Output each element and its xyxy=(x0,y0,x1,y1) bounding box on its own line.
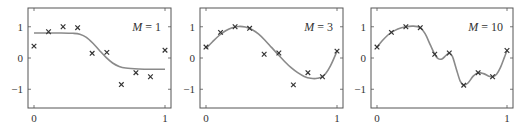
fit-curve xyxy=(206,26,337,78)
x-tick-label: 1 xyxy=(334,112,340,124)
y-tick-label: −1 xyxy=(354,83,366,95)
model-order-label: M = 3 xyxy=(303,20,333,34)
y-tick-label: 0 xyxy=(361,52,367,64)
y-tick-label: −1 xyxy=(183,83,195,95)
y-tick-label: 1 xyxy=(361,21,367,33)
data-point-cross-icon xyxy=(119,82,124,87)
panel-m10: 10−101 M = 10 xyxy=(354,8,513,124)
fit-curve xyxy=(377,26,507,85)
model-order-label: M = 1 xyxy=(131,20,161,34)
data-point-cross-icon xyxy=(163,48,168,53)
x-tick-label: 0 xyxy=(203,112,209,124)
data-point-cross-icon xyxy=(389,30,394,35)
y-tick-label: −1 xyxy=(11,83,23,95)
x-tick-label: 0 xyxy=(374,112,380,124)
data-point-cross-icon xyxy=(375,45,380,50)
fit-curve xyxy=(34,33,165,69)
panel-m1: 10−101 M = 1 xyxy=(11,8,171,124)
fit-curve-path xyxy=(377,26,507,85)
data-point-cross-icon xyxy=(148,74,153,79)
data-point-cross-icon xyxy=(291,83,296,88)
fit-curve-path xyxy=(206,26,337,78)
data-points xyxy=(32,24,168,86)
model-order-label: M = 10 xyxy=(467,20,503,34)
y-tick-label: 1 xyxy=(190,21,196,33)
data-point-cross-icon xyxy=(75,25,80,30)
data-point-cross-icon xyxy=(32,44,37,49)
panel-m3: 10−101 M = 3 xyxy=(183,8,343,124)
data-point-cross-icon xyxy=(306,70,311,75)
y-tick-label: 1 xyxy=(18,21,24,33)
y-tick-label: 0 xyxy=(18,52,24,64)
x-tick-label: 0 xyxy=(31,112,37,124)
y-tick-label: 0 xyxy=(190,52,196,64)
fit-curve-path xyxy=(34,33,165,69)
data-points xyxy=(375,24,510,87)
data-point-cross-icon xyxy=(262,52,267,57)
x-tick-label: 1 xyxy=(162,112,168,124)
data-point-cross-icon xyxy=(90,51,95,56)
x-tick-label: 1 xyxy=(504,112,510,124)
polynomial-fit-figure: 10−101 M = 1 10−101 M = 3 10−101 M = 10 xyxy=(0,0,523,129)
data-point-cross-icon xyxy=(105,50,110,55)
data-point-cross-icon xyxy=(134,70,139,75)
data-point-cross-icon xyxy=(61,24,66,29)
